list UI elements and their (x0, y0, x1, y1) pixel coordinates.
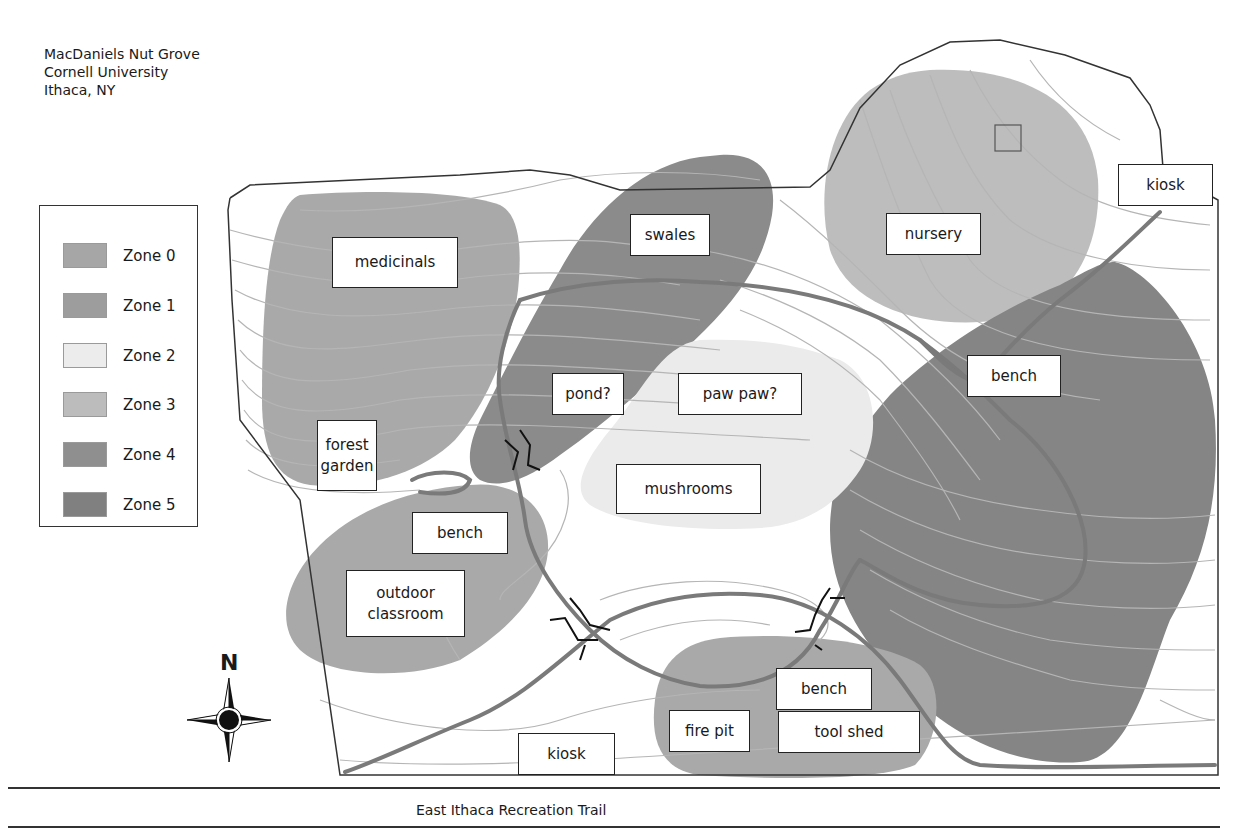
zone-1-swatch (63, 293, 107, 318)
legend: Zone 0 Zone 1 Zone 2 Zone 3 Zone 4 Zone … (39, 205, 198, 527)
legend-label: Zone 0 (123, 247, 176, 265)
legend-item-zone-2: Zone 2 (63, 343, 176, 368)
legend-label: Zone 1 (123, 297, 176, 315)
label-mushrooms: mushrooms (616, 464, 761, 514)
label-bench-west: bench (412, 512, 508, 554)
legend-item-zone-1: Zone 1 (63, 293, 176, 318)
zone-0-swatch (63, 243, 107, 268)
label-swales: swales (630, 214, 710, 256)
label-nursery: nursery (886, 213, 981, 255)
zone-5-swatch (63, 492, 107, 517)
legend-label: Zone 4 (123, 446, 176, 464)
legend-label: Zone 2 (123, 347, 176, 365)
label-pond: pond? (552, 373, 624, 415)
trail-name: East Ithaca Recreation Trail (416, 802, 606, 818)
trail-border-bottom (8, 826, 1220, 828)
label-fire-pit: fire pit (669, 710, 750, 752)
label-bench-south: bench (776, 668, 872, 710)
label-forest-garden: forest garden (317, 420, 377, 491)
label-tool-shed: tool shed (778, 711, 920, 753)
legend-item-zone-3: Zone 3 (63, 392, 176, 417)
compass-north-label: N (220, 650, 238, 675)
legend-item-zone-4: Zone 4 (63, 442, 176, 467)
zone-4-swatch (63, 442, 107, 467)
label-kiosk-north: kiosk (1118, 164, 1213, 206)
zone-2-swatch (63, 343, 107, 368)
label-medicinals: medicinals (332, 237, 458, 288)
trail-border-top (8, 787, 1220, 789)
zone-3-swatch (63, 392, 107, 417)
legend-item-zone-5: Zone 5 (63, 492, 176, 517)
legend-label: Zone 3 (123, 396, 176, 414)
label-bench-east: bench (967, 355, 1061, 397)
zone-nursery (824, 70, 1098, 323)
label-outdoor-classroom: outdoor classroom (346, 570, 465, 637)
label-kiosk-south: kiosk (518, 733, 615, 775)
compass-rose (187, 678, 271, 762)
zones (262, 70, 1216, 778)
label-paw-paw: paw paw? (678, 373, 802, 415)
legend-label: Zone 5 (123, 496, 176, 514)
legend-item-zone-0: Zone 0 (63, 243, 176, 268)
